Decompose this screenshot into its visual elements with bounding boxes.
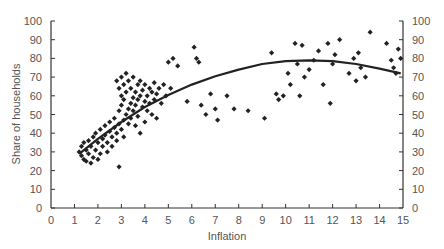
y-tick-label-left: 30 [30, 146, 42, 158]
x-tick-label: 12 [326, 214, 338, 226]
x-tick-label: 1 [71, 214, 77, 226]
x-axis-title: Inflation [208, 230, 247, 242]
data-point [114, 131, 119, 136]
x-tick-label: 15 [397, 214, 409, 226]
data-point [109, 134, 114, 139]
data-point [156, 86, 161, 91]
data-point [138, 131, 143, 136]
data-point [170, 56, 175, 61]
y-tick-label-left: 100 [24, 15, 42, 27]
data-point [142, 82, 147, 87]
data-point [285, 71, 290, 76]
data-point [114, 138, 119, 143]
y-tick-label-right: 50 [412, 109, 424, 121]
data-point [325, 41, 330, 46]
data-point [119, 75, 124, 80]
data-point [302, 75, 307, 80]
data-point [353, 78, 358, 83]
data-point [109, 144, 114, 149]
x-tick-label: 5 [165, 214, 171, 226]
data-point [91, 155, 96, 160]
y-tick-label-right: 60 [412, 90, 424, 102]
data-point [276, 97, 281, 102]
data-point [116, 86, 121, 91]
y-tick-label-right: 80 [412, 52, 424, 64]
y-tick-label-left: 60 [30, 90, 42, 102]
data-point [100, 144, 105, 149]
data-point [112, 116, 117, 121]
data-point [105, 149, 110, 154]
data-point [288, 82, 293, 87]
x-tick-label: 14 [373, 214, 385, 226]
y-tick-label-left: 40 [30, 127, 42, 139]
x-tick-label: 4 [142, 214, 148, 226]
data-point [114, 78, 119, 83]
x-tick-label: 7 [212, 214, 218, 226]
data-point [231, 106, 236, 111]
data-point [297, 93, 302, 98]
data-point [102, 123, 107, 128]
y-tick-label-right: 40 [412, 127, 424, 139]
y-tick-label-left: 10 [30, 183, 42, 195]
data-point [119, 127, 124, 132]
data-point [337, 37, 342, 42]
x-tick-label: 10 [280, 214, 292, 226]
data-point [123, 71, 128, 76]
x-tick-label: 0 [48, 214, 54, 226]
x-tick-label: 13 [350, 214, 362, 226]
data-point [292, 41, 297, 46]
data-point [98, 127, 103, 132]
data-point [351, 56, 356, 61]
data-point [175, 63, 180, 68]
scatter-chart: 0010102020303040405050606070708080909010… [0, 0, 444, 249]
data-point [274, 91, 279, 96]
data-point [215, 118, 220, 123]
data-point [133, 123, 138, 128]
data-point [384, 41, 389, 46]
axes: 0010102020303040405050606070708080909010… [24, 15, 431, 226]
data-point [185, 99, 190, 104]
data-point [307, 67, 312, 72]
data-point [93, 147, 98, 152]
y-tick-label-right: 0 [412, 202, 418, 214]
data-point [213, 106, 218, 111]
data-point [140, 88, 145, 93]
x-tick-label: 8 [236, 214, 242, 226]
data-point [159, 101, 164, 106]
data-point [208, 91, 213, 96]
data-point [316, 48, 321, 53]
data-point [152, 80, 157, 85]
y-tick-label-right: 70 [412, 71, 424, 83]
x-tick-label: 11 [303, 214, 314, 226]
data-point [321, 82, 326, 87]
y-tick-label-left: 80 [30, 52, 42, 64]
data-point [133, 89, 138, 94]
data-point [88, 161, 93, 166]
y-tick-label-right: 100 [412, 15, 430, 27]
data-point [192, 45, 197, 50]
data-point [126, 78, 131, 83]
x-tick-label: 6 [189, 214, 195, 226]
data-point [98, 151, 103, 156]
data-point [126, 106, 131, 111]
data-point [262, 116, 267, 121]
data-point [389, 58, 394, 63]
data-point [126, 121, 131, 126]
data-point [107, 119, 112, 124]
data-point [142, 119, 147, 124]
data-point [166, 60, 171, 65]
y-tick-label-right: 10 [412, 183, 424, 195]
data-point [356, 50, 361, 55]
data-point [328, 101, 333, 106]
data-point [123, 112, 128, 117]
x-tick-label: 3 [118, 214, 124, 226]
data-point [203, 112, 208, 117]
data-point [363, 75, 368, 80]
data-point [142, 99, 147, 104]
x-tick-label: 9 [259, 214, 265, 226]
y-tick-label-left: 0 [36, 202, 42, 214]
y-axis-title: Share of households [10, 63, 22, 164]
data-point [116, 108, 121, 113]
data-point [295, 61, 300, 66]
data-point [154, 116, 159, 121]
